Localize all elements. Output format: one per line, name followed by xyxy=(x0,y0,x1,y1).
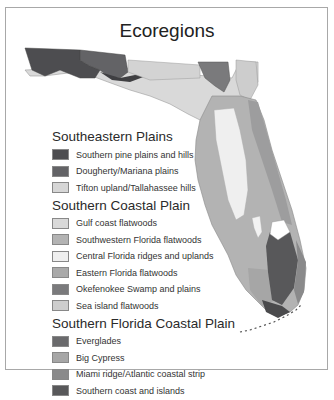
legend-swatch xyxy=(52,251,69,262)
legend-item: Southern coast and islands xyxy=(52,383,235,398)
legend-swatch xyxy=(52,369,69,380)
legend-label: Everglades xyxy=(76,336,121,346)
legend-label: Gulf coast flatwoods xyxy=(76,218,157,228)
legend-swatch xyxy=(52,284,69,295)
legend-label: Southern pine plains and hills xyxy=(76,150,194,160)
legend-item: Tifton upland/Tallahassee hills xyxy=(52,180,235,195)
legend-item: Southwestern Florida flatwoods xyxy=(52,232,235,247)
legend-group-title: Southern Coastal Plain xyxy=(52,197,235,214)
legend-label: Tifton upland/Tallahassee hills xyxy=(76,183,196,193)
legend-item: Dougherty/Mariana plains xyxy=(52,164,235,179)
legend-swatch xyxy=(52,336,69,347)
legend-swatch xyxy=(52,385,69,396)
legend-label: Southern coast and islands xyxy=(76,386,185,396)
legend-item: Eastern Florida flatwoods xyxy=(52,265,235,280)
legend: Southeastern Plains Southern pine plains… xyxy=(52,128,235,400)
legend-label: Dougherty/Mariana plains xyxy=(76,166,179,176)
legend-group-southeastern-plains: Southeastern Plains Southern pine plains… xyxy=(52,128,235,195)
legend-swatch xyxy=(52,166,69,177)
legend-label: Miami ridge/Atlantic coastal strip xyxy=(76,369,205,379)
legend-label: Central Florida ridges and uplands xyxy=(76,251,214,261)
legend-item: Gulf coast flatwoods xyxy=(52,216,235,231)
legend-item: Central Florida ridges and uplands xyxy=(52,249,235,264)
legend-swatch xyxy=(52,149,69,160)
legend-item: Okefenokee Swamp and plains xyxy=(52,282,235,297)
legend-item: Miami ridge/Atlantic coastal strip xyxy=(52,367,235,382)
legend-label: Big Cypress xyxy=(76,353,125,363)
legend-group-title: Southern Florida Coastal Plain xyxy=(52,315,235,332)
legend-item: Sea island flatwoods xyxy=(52,298,235,313)
legend-swatch xyxy=(52,352,69,363)
legend-group-title: Southeastern Plains xyxy=(52,128,235,145)
legend-swatch xyxy=(52,267,69,278)
legend-label: Eastern Florida flatwoods xyxy=(76,268,178,278)
legend-group-southern-florida-coastal-plain: Southern Florida Coastal Plain Everglade… xyxy=(52,315,235,399)
map-title: Ecoregions xyxy=(0,20,334,42)
legend-label: Okefenokee Swamp and plains xyxy=(76,284,201,294)
legend-group-southern-coastal-plain: Southern Coastal Plain Gulf coast flatwo… xyxy=(52,197,235,314)
legend-swatch xyxy=(52,234,69,245)
legend-swatch xyxy=(52,300,69,311)
legend-swatch xyxy=(52,182,69,193)
legend-item: Everglades xyxy=(52,334,235,349)
legend-label: Southwestern Florida flatwoods xyxy=(76,235,202,245)
legend-item: Big Cypress xyxy=(52,350,235,365)
legend-label: Sea island flatwoods xyxy=(76,301,159,311)
legend-item: Southern pine plains and hills xyxy=(52,147,235,162)
legend-swatch xyxy=(52,218,69,229)
